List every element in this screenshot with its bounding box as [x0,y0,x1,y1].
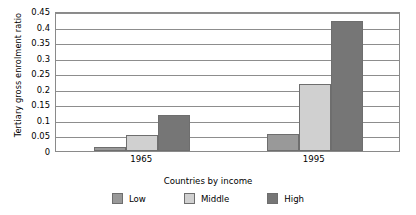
x-axis-tick-label: 1995 [303,155,325,164]
legend-item-high[interactable]: High [267,193,304,204]
bar-low-1995 [267,134,299,151]
legend-swatch-high [267,193,278,204]
y-axis-tick-label: 0 [45,148,50,156]
y-axis-tick-labels: 00.050.10.150.20.250.30.350.40.45 [18,12,52,152]
legend-item-middle[interactable]: Middle [184,193,229,204]
y-axis-tick-label: 0.15 [31,101,50,109]
chart-legend: LowMiddleHigh [0,193,416,204]
y-axis-tick-label: 0.2 [37,86,50,94]
y-axis-tick-label: 0.4 [37,23,50,31]
legend-label: Middle [201,194,229,204]
y-axis-tick-label: 0.35 [31,39,50,47]
y-axis-tick-label: 0.05 [31,132,50,140]
bar-low-1965 [94,147,126,151]
y-axis-tick-label: 0.1 [37,117,50,125]
bar-middle-1965 [126,135,158,151]
bar-middle-1995 [299,84,331,152]
bar-high-1965 [158,115,190,151]
y-axis-tick-label: 0.25 [31,70,50,78]
legend-label: Low [129,194,146,204]
x-axis-tick-label: 1965 [130,155,152,164]
y-axis-tick-label: 0.3 [37,54,50,62]
bar-high-1995 [331,21,363,151]
legend-item-low[interactable]: Low [112,193,146,204]
legend-swatch-middle [184,193,195,204]
x-axis-title: Countries by income [0,176,416,186]
legend-label: High [284,194,304,204]
plot-area [55,12,400,152]
y-axis-tick-label: 0.45 [31,8,50,16]
x-axis-tick-labels: 19651995 [55,155,400,169]
legend-swatch-low [112,193,123,204]
bars-layer [56,13,399,151]
bar-chart: Tertiary gross enrolment ratio 00.050.10… [0,0,416,215]
